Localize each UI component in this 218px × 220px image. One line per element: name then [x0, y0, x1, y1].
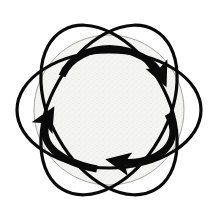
cyclic-rotation-diagram: [0, 0, 218, 220]
figure-root: Three-fold cyclic rotation diagram Three…: [0, 0, 218, 220]
central-disc: [34, 35, 184, 185]
central-disc-group: [34, 35, 184, 185]
